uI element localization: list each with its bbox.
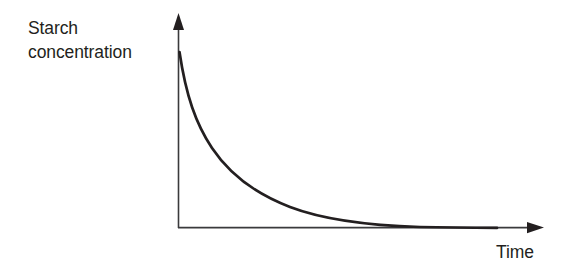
y-axis-label-line-1: Starch (28, 16, 132, 40)
decay-curve (180, 52, 498, 228)
figure-exponential-decay-chart: Starch concentration Time (0, 0, 577, 265)
x-axis-label: Time (496, 240, 534, 264)
y-axis-arrow-icon (173, 13, 184, 30)
x-axis-arrow-icon (527, 222, 544, 233)
y-axis-label: Starch concentration (28, 16, 132, 64)
y-axis-label-line-2: concentration (28, 40, 132, 64)
